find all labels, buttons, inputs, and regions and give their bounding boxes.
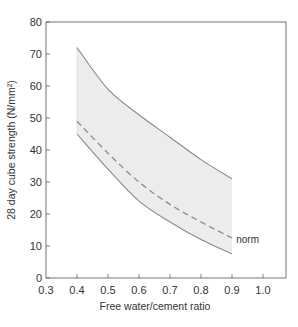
y-tick-label: 60	[30, 80, 42, 92]
x-tick-label: 1.0	[255, 284, 270, 296]
y-tick-label: 20	[30, 208, 42, 220]
y-tick-label: 30	[30, 176, 42, 188]
strength-chart: 01020304050607080 0.30.40.50.60.70.80.91…	[0, 0, 298, 327]
x-tick-label: 0.4	[69, 284, 84, 296]
x-tick-label: 0.3	[38, 284, 53, 296]
x-tick-label: 0.9	[224, 284, 239, 296]
y-tick-label: 0	[36, 272, 42, 284]
y-tick-label: 80	[30, 16, 42, 28]
band-fill	[77, 48, 232, 254]
y-axis-ticks: 01020304050607080	[30, 16, 50, 284]
x-tick-label: 0.8	[193, 284, 208, 296]
x-axis-ticks: 0.30.40.50.60.70.80.91.0	[38, 274, 270, 296]
x-tick-label: 0.7	[162, 284, 177, 296]
x-tick-label: 0.5	[100, 284, 115, 296]
y-tick-label: 40	[30, 144, 42, 156]
x-axis-title: Free water/cement ratio	[100, 300, 211, 312]
y-tick-label: 50	[30, 112, 42, 124]
y-tick-label: 10	[30, 240, 42, 252]
shaded-band	[77, 48, 232, 254]
y-axis-title: 28 day cube strength (N/mm²)	[5, 80, 17, 219]
y-tick-label: 70	[30, 48, 42, 60]
norm-annotation: norm	[236, 234, 259, 245]
x-tick-label: 0.6	[131, 284, 146, 296]
